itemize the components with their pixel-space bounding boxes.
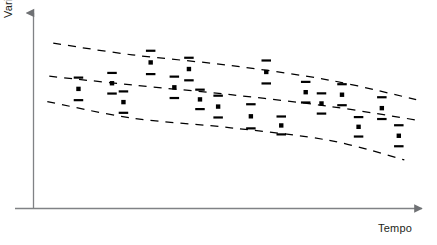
error-bar-upper-cap (394, 124, 404, 126)
error-bar-upper-cap (377, 96, 387, 98)
data-point-square (198, 97, 202, 101)
data-point-square (148, 60, 152, 64)
data-point-marker (337, 83, 347, 106)
error-bar-lower-cap (337, 104, 347, 106)
error-bar-upper-cap (277, 115, 287, 117)
band-curve-2 (47, 102, 404, 160)
data-point-square (380, 106, 384, 110)
error-bar-lower-cap (394, 145, 404, 147)
error-bar-upper-cap (262, 59, 272, 61)
data-point-marker (394, 124, 404, 147)
y-axis-label-wrap: Variável (0, 0, 24, 80)
data-point-marker (262, 59, 272, 84)
error-bar-upper-cap (107, 72, 117, 74)
data-point-marker (213, 95, 223, 119)
data-point-square (216, 104, 220, 108)
data-point-square (187, 67, 191, 71)
error-bar-upper-cap (146, 50, 156, 52)
error-bar-lower-cap (107, 92, 117, 94)
error-bar-lower-cap (170, 97, 180, 99)
data-point-square (279, 123, 283, 127)
data-point-square (110, 81, 114, 85)
data-point-square (249, 114, 253, 118)
axis-group (15, 13, 422, 209)
data-point-marker (317, 92, 327, 114)
error-bar-upper-cap (184, 57, 194, 59)
error-bar-upper-cap (74, 77, 84, 79)
data-point-square (304, 90, 308, 94)
error-bar-lower-cap (74, 99, 84, 101)
error-bar-lower-cap (213, 116, 223, 118)
data-point-marker (119, 90, 129, 114)
error-bar-lower-cap (246, 127, 256, 129)
error-bar-upper-cap (317, 92, 327, 94)
y-axis-label: Variável (2, 0, 14, 18)
error-bar-lower-cap (301, 101, 311, 103)
error-bar-upper-cap (301, 81, 311, 83)
chart-figure: Variável Tempo (0, 0, 437, 245)
data-point-marker (246, 103, 256, 129)
error-bar-upper-cap (337, 83, 347, 85)
error-bar-upper-cap (246, 103, 256, 105)
data-point-square (397, 134, 401, 138)
error-bar-lower-cap (195, 108, 205, 110)
error-bar-upper-cap (170, 76, 180, 78)
error-bar-lower-cap (377, 118, 387, 120)
error-bar-lower-cap (277, 133, 287, 135)
data-point-square (121, 100, 125, 104)
error-bar-upper-cap (213, 95, 223, 97)
error-bar-lower-cap (146, 73, 156, 75)
data-point-marker (146, 50, 156, 76)
error-bar-lower-cap (354, 135, 364, 137)
data-point-square (340, 93, 344, 97)
error-bar-upper-cap (195, 89, 205, 91)
data-point-marker (377, 96, 387, 120)
chart-canvas (0, 0, 437, 245)
error-bar-upper-cap (354, 116, 364, 118)
x-axis-label: Tempo (378, 222, 412, 234)
data-point-square (76, 87, 80, 91)
data-point-marker (354, 116, 364, 138)
error-bar-lower-cap (317, 112, 327, 114)
band-curve-1 (49, 76, 416, 120)
band-curve-0 (53, 43, 416, 99)
data-point-layer (74, 50, 404, 148)
error-bar-lower-cap (184, 79, 194, 81)
data-point-marker (170, 76, 180, 100)
error-bar-lower-cap (119, 112, 129, 114)
data-point-marker (301, 81, 311, 104)
error-bar-upper-cap (119, 90, 129, 92)
error-bar-lower-cap (262, 82, 272, 84)
confidence-band-layer (47, 43, 416, 160)
data-point-square (172, 85, 176, 89)
data-point-square (356, 125, 360, 129)
data-point-square (319, 101, 323, 105)
data-point-square (264, 70, 268, 74)
